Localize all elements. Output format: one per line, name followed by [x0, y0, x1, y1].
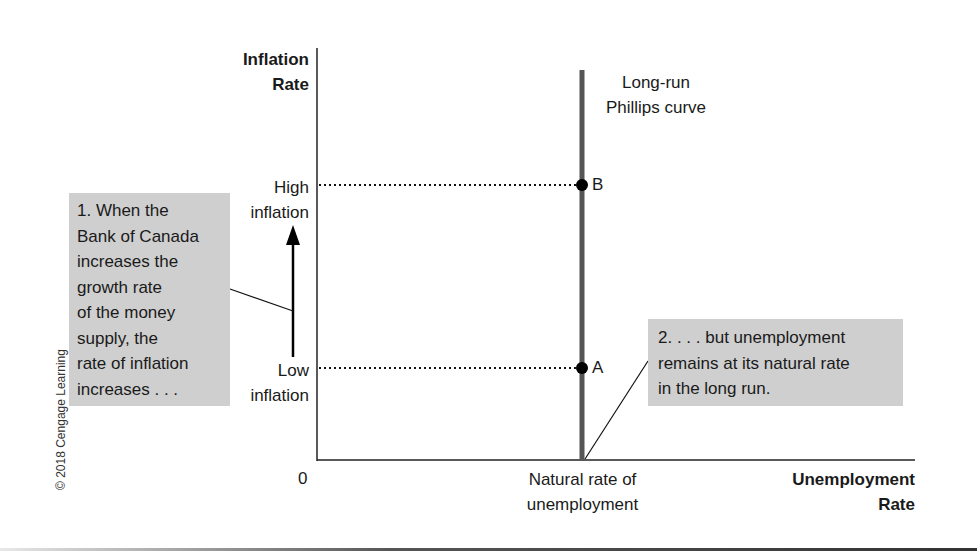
x-axis-title-line-1: Unemployment — [740, 467, 915, 492]
annotation-2-line: remains at its natural rate — [658, 351, 893, 377]
y-tick-low-line-1: Low — [225, 358, 309, 383]
point-a — [576, 362, 588, 374]
x-axis-title-line-2: Rate — [740, 492, 915, 517]
point-b — [576, 179, 588, 191]
annotation-1-line: 1. When the — [77, 198, 222, 224]
y-tick-high-line-2: inflation — [225, 200, 309, 225]
point-b-label: B — [592, 174, 603, 195]
y-tick-high-line-1: High — [225, 175, 309, 200]
lrpc-label-line-2: Phillips curve — [588, 95, 724, 120]
y-tick-low-line-2: inflation — [225, 383, 309, 408]
annotation-2-line: 2. . . . but unemployment — [658, 325, 893, 351]
annotation-1-line: rate of inflation — [77, 351, 222, 377]
copyright-notice: © 2018 Cengage Learning — [54, 349, 68, 490]
point-a-label: A — [592, 357, 603, 378]
y-axis-title: Inflation Rate — [200, 47, 309, 97]
y-axis-title-line-1: Inflation — [200, 47, 309, 72]
annotation-1-line: increases the — [77, 249, 222, 275]
x-tick-natural-rate: Natural rate of unemployment — [510, 467, 655, 517]
annotation-1-line: of the money — [77, 300, 222, 326]
bottom-divider — [0, 548, 977, 551]
annotation-1-line: increases . . . — [77, 377, 222, 403]
annotation-box-1: 1. When the Bank of Canada increases the… — [69, 193, 230, 406]
x-tick-line-2: unemployment — [510, 492, 655, 517]
y-tick-high-inflation: High inflation — [225, 175, 309, 225]
origin-label: 0 — [298, 468, 307, 489]
annotation-1-line: growth rate — [77, 275, 222, 301]
annotation-1-line: supply, the — [77, 326, 222, 352]
y-tick-low-inflation: Low inflation — [225, 358, 309, 408]
leader-line-1 — [230, 289, 293, 311]
lrpc-label-line-1: Long-run — [588, 70, 724, 95]
x-tick-line-1: Natural rate of — [510, 467, 655, 492]
annotation-1-line: Bank of Canada — [77, 224, 222, 250]
lrpc-label: Long-run Phillips curve — [588, 70, 724, 120]
arrow-head-icon — [286, 225, 300, 245]
annotation-2-line: in the long run. — [658, 376, 893, 402]
x-axis-title: Unemployment Rate — [740, 467, 915, 517]
y-axis-title-line-2: Rate — [200, 72, 309, 97]
annotation-box-2: 2. . . . but unemployment remains at its… — [648, 319, 903, 406]
